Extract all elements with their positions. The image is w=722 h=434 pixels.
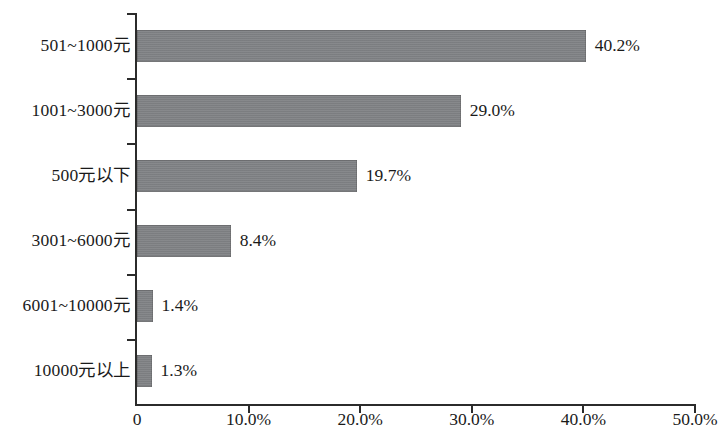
bar-row: 500元以下19.7% xyxy=(0,143,722,208)
bar-value-label: 8.4% xyxy=(240,232,276,250)
bar-row: 6001~10000元1.4% xyxy=(0,274,722,339)
bar-value-label: 40.2% xyxy=(595,37,640,55)
category-label: 1001~3000元 xyxy=(32,102,130,120)
bar xyxy=(137,95,461,127)
bar-value-label: 19.7% xyxy=(366,167,411,185)
bar xyxy=(137,225,231,257)
category-label: 6001~10000元 xyxy=(23,298,130,316)
bar-row: 10000元以上1.3% xyxy=(0,339,722,404)
x-axis-tick-label: 50.0% xyxy=(672,411,717,429)
x-axis-tick-label: 30.0% xyxy=(449,411,494,429)
bar-value-label: 1.4% xyxy=(162,298,198,316)
x-axis-line xyxy=(135,404,695,406)
bar-value-label: 29.0% xyxy=(470,102,515,120)
x-axis-tick-label: 20.0% xyxy=(338,411,383,429)
x-axis-tick-label: 0 xyxy=(133,411,142,429)
category-label: 3001~6000元 xyxy=(32,232,130,250)
bar-chart: 501~1000元40.2%1001~3000元29.0%500元以下19.7%… xyxy=(0,0,722,434)
bar xyxy=(137,160,357,192)
bar xyxy=(137,30,586,62)
x-axis-tick-label: 10.0% xyxy=(226,411,271,429)
bar-row: 501~1000元40.2% xyxy=(0,13,722,78)
bar xyxy=(137,290,153,322)
bar xyxy=(137,355,152,387)
category-label: 10000元以上 xyxy=(34,363,130,381)
bar-row: 1001~3000元29.0% xyxy=(0,78,722,143)
x-axis-tick-label: 40.0% xyxy=(561,411,606,429)
bar-value-label: 1.3% xyxy=(161,363,197,381)
category-label: 500元以下 xyxy=(52,167,130,185)
bar-row: 3001~6000元8.4% xyxy=(0,209,722,274)
category-label: 501~1000元 xyxy=(40,37,130,55)
